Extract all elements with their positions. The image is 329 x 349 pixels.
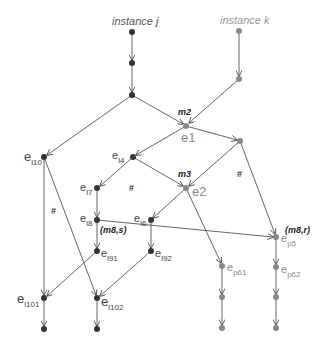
node-el7 bbox=[94, 185, 100, 191]
node bbox=[129, 29, 135, 35]
node bbox=[236, 28, 242, 34]
event-el6-label: el6 bbox=[134, 213, 146, 228]
event-el102-label: el102 bbox=[101, 295, 123, 312]
node bbox=[41, 326, 47, 332]
node bbox=[273, 294, 279, 300]
node-el4 bbox=[130, 154, 136, 160]
node-e2 bbox=[183, 185, 189, 191]
edge bbox=[153, 188, 186, 218]
node bbox=[236, 76, 242, 82]
node bbox=[129, 92, 135, 98]
edge bbox=[133, 157, 183, 186]
event-ep61-label: ep61 bbox=[227, 262, 246, 277]
edge bbox=[189, 141, 240, 186]
event-e2-label: e2 bbox=[192, 185, 206, 198]
edge bbox=[186, 188, 221, 263]
message-m3-label: m3 bbox=[178, 170, 191, 179]
event-el101-label: el101 bbox=[17, 292, 39, 309]
node-ep61 bbox=[219, 263, 225, 269]
node bbox=[219, 325, 225, 331]
node-el6 bbox=[148, 217, 154, 223]
edge bbox=[189, 79, 239, 123]
event-el7-label: el7 bbox=[80, 182, 92, 197]
node-el92 bbox=[148, 248, 154, 254]
event-ep62-label: ep62 bbox=[281, 264, 300, 279]
node-el101 bbox=[41, 295, 47, 301]
event-el4-label: el4 bbox=[112, 150, 124, 165]
concurrency-marker: # bbox=[129, 184, 134, 193]
edge bbox=[47, 251, 97, 296]
partial-order-graph bbox=[0, 0, 329, 349]
node bbox=[273, 325, 279, 331]
concurrency-marker: # bbox=[237, 170, 242, 179]
node bbox=[219, 294, 225, 300]
node-ep5 bbox=[273, 234, 279, 240]
edge bbox=[136, 126, 186, 155]
node bbox=[129, 60, 135, 66]
node-el102 bbox=[94, 295, 100, 301]
edge bbox=[47, 95, 132, 155]
message-m8s-label: (m8,s) bbox=[100, 226, 127, 235]
message-m2-label: m2 bbox=[178, 108, 191, 117]
event-e1-label: e1 bbox=[181, 131, 195, 144]
node-el91 bbox=[94, 248, 100, 254]
node-ep62 bbox=[273, 264, 279, 270]
instance-j-label: instance j bbox=[112, 16, 158, 27]
event-el92-label: el92 bbox=[155, 248, 172, 263]
node bbox=[237, 138, 243, 144]
event-ep5-label: ep5 bbox=[281, 233, 296, 248]
edge bbox=[240, 141, 275, 234]
event-el91-label: el91 bbox=[101, 248, 118, 263]
instance-k-label: instance k bbox=[220, 15, 270, 26]
edge bbox=[132, 95, 183, 124]
concurrency-marker: # bbox=[51, 207, 56, 216]
node-e1 bbox=[183, 123, 189, 129]
node bbox=[94, 326, 100, 332]
node-el8 bbox=[94, 217, 100, 223]
event-el10-label: el10 bbox=[24, 150, 42, 167]
event-el8-label: el8 bbox=[80, 213, 92, 228]
